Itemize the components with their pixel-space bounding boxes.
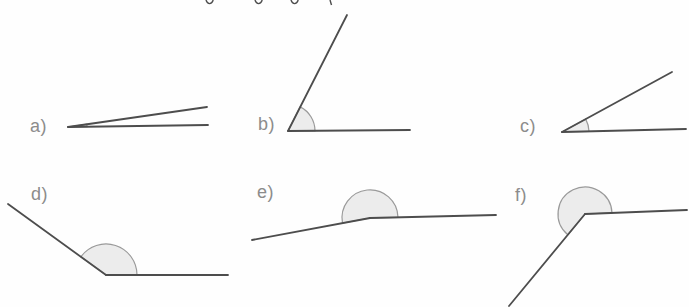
figure-label-c: c) xyxy=(520,117,536,135)
cut-off-text-fragment-tick xyxy=(330,0,332,5)
figure-label-f: f) xyxy=(515,186,527,204)
angle-ray2-d xyxy=(8,204,106,275)
figure-label-a: a) xyxy=(30,117,47,135)
angle-ray1-a xyxy=(68,125,208,127)
angle-ray2-f xyxy=(509,214,585,306)
angle-ray2-e xyxy=(252,218,370,240)
angle-ray2-a xyxy=(68,107,207,127)
angle-sector-b xyxy=(288,107,315,131)
angles-canvas xyxy=(0,0,689,307)
cut-off-text-fragment-1 xyxy=(255,0,262,4)
angle-ray2-c xyxy=(562,72,672,132)
angle-sector-d xyxy=(81,244,137,275)
worksheet-strip: a) b) c) d) e) f) xyxy=(0,0,689,307)
figure-label-d: d) xyxy=(31,185,48,203)
cut-off-text-fragment-0 xyxy=(206,0,213,4)
angle-ray1-b xyxy=(288,130,410,131)
figure-label-b: b) xyxy=(258,115,275,133)
angle-ray2-b xyxy=(288,15,347,131)
cut-off-text-fragment-2 xyxy=(291,0,298,4)
figure-label-e: e) xyxy=(257,183,274,201)
angle-sector-f xyxy=(558,187,612,235)
